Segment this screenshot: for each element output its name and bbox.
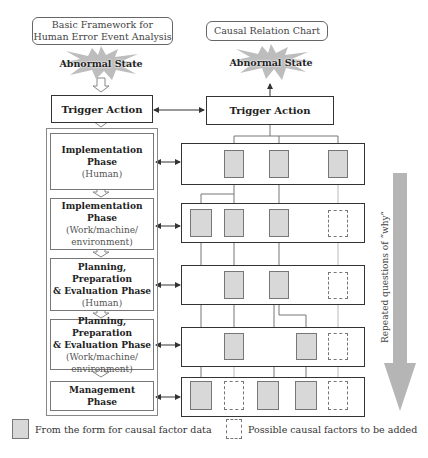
framework-title-line2: Human Error Event Analysis xyxy=(33,31,171,43)
phase-implementation-work: Implementation Phase (Work/machine/ envi… xyxy=(50,198,154,250)
causal-factor-data xyxy=(269,271,289,299)
trigger-action-right: Trigger Action xyxy=(206,96,334,125)
trigger-action-label: Trigger Action xyxy=(229,105,310,116)
abnormal-state-left: Abnormal State xyxy=(58,46,144,80)
phase-title: Phase xyxy=(87,396,117,408)
phase-title: & Evaluation Phase xyxy=(53,285,151,297)
phase-subtitle: environment) xyxy=(71,363,132,375)
phase-subtitle: (Work/machine/ xyxy=(66,351,138,363)
legend-possible-label: Possible causal factors to be added xyxy=(248,424,417,435)
phase-title: Planning, Preparation xyxy=(51,261,153,285)
causal-factor-data xyxy=(224,271,244,299)
causal-factor-data xyxy=(224,333,244,360)
causal-factor-data xyxy=(328,150,348,178)
phase-planning-work: Planning, Preparation & Evaluation Phase… xyxy=(50,319,154,370)
phase-subtitle: (Work/machine/ xyxy=(66,224,138,236)
causal-factor-data xyxy=(224,209,244,237)
phase-title: Implementation xyxy=(61,144,142,156)
phase-title: Planning, Preparation xyxy=(51,315,153,339)
causal-factor-data xyxy=(190,209,212,237)
abnormal-state-label: Abnormal State xyxy=(58,58,144,69)
phase-title: Management xyxy=(69,384,135,396)
phase-subtitle: (Human) xyxy=(82,297,122,309)
causal-factor-data xyxy=(296,333,317,360)
possible-causal-factor xyxy=(328,210,348,237)
trigger-action-label: Trigger Action xyxy=(61,104,142,115)
possible-causal-factor xyxy=(328,333,348,360)
phase-title: Implementation Phase xyxy=(51,200,153,224)
why-arrow-label: Repeated questions of “why” xyxy=(380,211,390,343)
framework-title: Basic Framework for Human Error Event An… xyxy=(32,17,173,45)
causal-chart-title-label: Causal Relation Chart xyxy=(214,25,320,37)
phase-subtitle: environment) xyxy=(71,236,132,248)
trigger-action-left: Trigger Action xyxy=(51,95,153,123)
phase-planning-human: Planning, Preparation & Evaluation Phase… xyxy=(50,258,154,311)
causal-factor-data xyxy=(190,381,212,410)
causal-factor-data xyxy=(295,381,317,410)
possible-causal-factor xyxy=(224,381,244,410)
phase-title: & Evaluation Phase xyxy=(53,339,151,351)
abnormal-state-label: Abnormal State xyxy=(228,57,314,68)
causal-factor-data xyxy=(257,381,279,410)
phase-management: Management Phase xyxy=(50,381,154,411)
legend-data-swatch xyxy=(12,419,29,439)
causal-factor-data xyxy=(224,150,244,178)
possible-causal-factor xyxy=(328,272,348,299)
abnormal-state-right: Abnormal State xyxy=(228,44,314,80)
phase-implementation-human: Implementation Phase (Human) xyxy=(50,133,154,190)
causal-chart-title: Causal Relation Chart xyxy=(206,21,328,41)
framework-title-line1: Basic Framework for xyxy=(33,19,171,31)
causal-factor-data xyxy=(269,209,289,237)
legend-data-label: From the form for causal factor data xyxy=(35,424,212,435)
legend-possible-swatch xyxy=(226,419,242,439)
phase-subtitle: (Human) xyxy=(82,168,122,180)
possible-causal-factor xyxy=(328,381,348,410)
phase-title: Phase xyxy=(87,156,117,168)
causal-factor-data xyxy=(269,150,289,178)
